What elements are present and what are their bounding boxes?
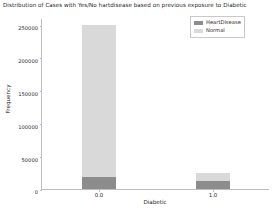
y-tick-label: 200000 — [18, 58, 42, 63]
chart-figure: Distribution of Cases with Yes/No hartdi… — [0, 0, 272, 212]
chart-legend: HeartDiseaseNormal — [190, 16, 245, 38]
chart-title: Distribution of Cases with Yes/No hartdi… — [3, 1, 269, 9]
x-axis-label: Diabetic — [41, 199, 269, 205]
legend-item[interactable]: Normal — [194, 27, 241, 35]
bar-normal — [82, 25, 116, 189]
legend-swatch-icon — [194, 21, 203, 25]
bars-layer — [42, 19, 269, 189]
y-tick-label: 150000 — [18, 91, 42, 96]
x-tick-mark — [213, 189, 214, 192]
y-tick-label: 100000 — [18, 124, 42, 129]
legend-item[interactable]: HeartDisease — [194, 19, 241, 27]
bar-heartdisease — [196, 181, 230, 189]
y-tick-mark — [40, 91, 43, 92]
y-tick-mark — [40, 58, 43, 59]
y-tick-mark — [40, 190, 43, 191]
y-tick-label: 250000 — [18, 26, 42, 31]
plot-area: 050000100000150000200000250000 0.01.0 — [41, 19, 269, 190]
y-axis-label: Frequency — [5, 71, 11, 127]
y-tick-mark — [40, 157, 43, 158]
bar-heartdisease — [82, 177, 116, 189]
legend-swatch-icon — [194, 29, 203, 33]
legend-label: Normal — [206, 28, 225, 33]
legend-label: HeartDisease — [206, 20, 241, 25]
y-tick-mark — [40, 26, 43, 27]
y-tick-mark — [40, 124, 43, 125]
x-tick-mark — [99, 189, 100, 192]
